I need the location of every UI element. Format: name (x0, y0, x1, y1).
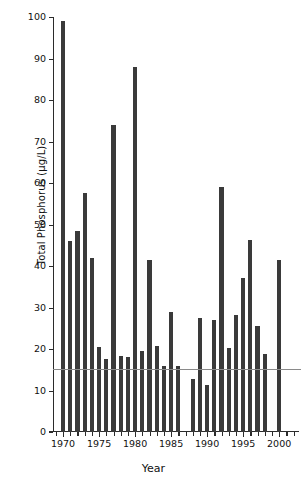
x-tick-label: 1970 (51, 439, 75, 449)
y-tick-label: 30 (34, 303, 46, 313)
y-tick-label: 20 (34, 344, 46, 354)
x-tick-mark-minor (106, 432, 107, 436)
x-tick-mark-minor (92, 432, 93, 436)
bar (255, 326, 259, 432)
bar (277, 260, 281, 432)
x-tick-mark-minor (193, 432, 194, 436)
y-tick-label: 10 (34, 386, 46, 396)
x-tick-mark-minor (186, 432, 187, 436)
bar (61, 21, 65, 432)
x-tick-mark-minor (272, 432, 273, 436)
y-tick-label: 0 (40, 427, 46, 437)
bar (198, 318, 202, 432)
y-tick-mark (49, 142, 53, 143)
x-tick-mark-minor (222, 432, 223, 436)
y-tick-label: 60 (34, 178, 46, 188)
x-tick-label: 1980 (123, 439, 147, 449)
bar (263, 354, 267, 432)
y-tick-mark (49, 183, 53, 184)
bar (219, 187, 223, 432)
y-tick-mark (49, 308, 53, 309)
x-tick-mark-minor (70, 432, 71, 436)
bar (140, 351, 144, 432)
bar (147, 260, 151, 432)
x-tick-mark-minor (178, 432, 179, 436)
bar (68, 241, 72, 432)
bar (169, 312, 173, 432)
bar (97, 347, 101, 432)
x-tick-mark-minor (200, 432, 201, 436)
y-tick-label: 90 (34, 54, 46, 64)
x-tick-mark-minor (164, 432, 165, 436)
x-tick-mark (171, 432, 172, 437)
x-tick-mark-minor (56, 432, 57, 436)
bar (90, 258, 94, 432)
x-tick-mark (279, 432, 280, 437)
bar (234, 315, 238, 432)
bar (119, 356, 123, 432)
reference-line (53, 369, 301, 370)
bar (227, 348, 231, 432)
x-tick-mark-minor (258, 432, 259, 436)
x-axis-title: Year (0, 462, 307, 475)
y-tick-label: 70 (34, 137, 46, 147)
x-tick-mark-minor (128, 432, 129, 436)
bar (155, 346, 159, 432)
y-tick-label: 100 (28, 12, 46, 22)
x-tick-mark (63, 432, 64, 437)
x-tick-label: 1995 (231, 439, 255, 449)
bar (104, 359, 108, 432)
bar (212, 320, 216, 432)
x-tick-mark-minor (265, 432, 266, 436)
y-tick-mark (49, 391, 53, 392)
y-tick-mark (49, 432, 53, 433)
bar (111, 125, 115, 432)
y-tick-label: 40 (34, 261, 46, 271)
x-tick-mark-minor (77, 432, 78, 436)
x-tick-mark (243, 432, 244, 437)
plot-area: 0102030405060708090100 19701975198019851… (53, 17, 295, 432)
x-tick-mark-minor (114, 432, 115, 436)
y-tick-mark (49, 59, 53, 60)
x-tick-mark (99, 432, 100, 437)
y-tick-label: 50 (34, 220, 46, 230)
x-tick-label: 1990 (195, 439, 219, 449)
y-tick-mark (49, 225, 53, 226)
y-tick-mark (49, 266, 53, 267)
bar (162, 366, 166, 432)
x-tick-mark-minor (214, 432, 215, 436)
x-tick-label: 1975 (87, 439, 111, 449)
x-tick-mark-minor (150, 432, 151, 436)
x-tick-label: 2000 (267, 439, 291, 449)
y-tick-mark (49, 349, 53, 350)
x-tick-mark-minor (85, 432, 86, 436)
bar (83, 193, 87, 432)
bar (75, 231, 79, 432)
bar (191, 379, 195, 432)
phosphorus-bar-chart: Total Phosphorus (µg/L) 0102030405060708… (0, 0, 307, 486)
x-tick-mark-minor (250, 432, 251, 436)
y-tick-mark (49, 17, 53, 18)
bar (133, 67, 137, 432)
x-tick-mark (135, 432, 136, 437)
bar (248, 240, 252, 432)
x-tick-mark (207, 432, 208, 437)
x-tick-mark-minor (236, 432, 237, 436)
x-tick-mark-minor (286, 432, 287, 436)
y-axis-title: Total Phosphorus (µg/L) (36, 86, 47, 326)
x-tick-mark-minor (142, 432, 143, 436)
bar (176, 366, 180, 432)
x-tick-mark-minor (294, 432, 295, 436)
x-tick-mark-minor (229, 432, 230, 436)
x-tick-label: 1985 (159, 439, 183, 449)
x-tick-mark-minor (121, 432, 122, 436)
y-tick-mark (49, 100, 53, 101)
bar (205, 385, 209, 432)
bar (241, 278, 245, 432)
x-tick-mark-minor (157, 432, 158, 436)
y-tick-label: 80 (34, 95, 46, 105)
